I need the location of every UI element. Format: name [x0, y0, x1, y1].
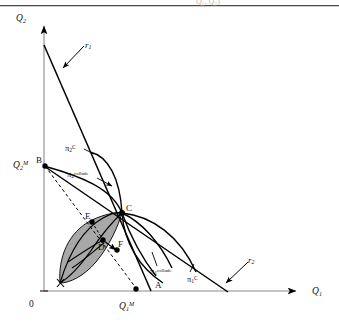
- q2-monopoly-q: Q: [13, 160, 20, 170]
- q2-monopoly-sup: M: [23, 160, 28, 166]
- point-A: [133, 286, 138, 291]
- r2-label: r2: [248, 256, 254, 265]
- origin-label: 0: [29, 300, 34, 310]
- y-axis-label-sub: 2: [23, 18, 26, 24]
- leader-r1: [63, 46, 84, 68]
- r2-label-sub: 2: [252, 259, 255, 265]
- y-axis-label: Q2: [16, 14, 26, 24]
- point-C: [119, 210, 125, 216]
- cournot-duopoly-diagram: [0, 0, 339, 333]
- pi1-cournot-label: π1C: [187, 275, 198, 284]
- x-axis-label-text: Q: [312, 286, 319, 296]
- x-axis-label-sub: 1: [319, 291, 322, 297]
- point-label-B: B: [36, 156, 42, 165]
- x-axis-label: Q1: [312, 287, 322, 297]
- pi2-cournot-sup: C: [72, 144, 76, 150]
- q2-monopoly-label: Q2M: [13, 161, 28, 171]
- point-label-C: C: [126, 204, 132, 213]
- leader-pi1-collude: [152, 252, 157, 266]
- pi1-collude-sup: collude: [157, 268, 171, 273]
- q1-monopoly-label: Q1M: [119, 302, 134, 312]
- q1-monopoly-q: Q: [119, 301, 126, 311]
- pi2-cournot-label: π2C: [65, 144, 76, 153]
- pi2-collude-label: π2collude: [67, 170, 89, 179]
- y-axis-label-text: Q: [16, 13, 23, 23]
- q1-monopoly-sup: M: [129, 301, 134, 307]
- r1-label: r1: [85, 41, 91, 50]
- pi2-collude-sup: collude: [74, 171, 88, 176]
- point-label-F: F: [118, 240, 123, 249]
- figure-root: Q₁, Q₂): [0, 0, 339, 333]
- leader-r2: [226, 262, 248, 283]
- point-label-D: D: [98, 243, 105, 252]
- pi1-cournot-sup: C: [194, 275, 198, 281]
- point-label-E: E: [85, 212, 91, 221]
- r1-label-sub: 1: [89, 44, 92, 50]
- point-B: [42, 163, 47, 168]
- pi1-collude-label: π1collude: [150, 267, 172, 276]
- point-label-A: A: [155, 281, 162, 290]
